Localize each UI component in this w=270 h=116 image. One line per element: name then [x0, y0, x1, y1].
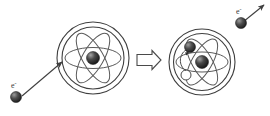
incoming-electron-label: e- [11, 80, 17, 90]
ejected-electron-label: e- [236, 6, 242, 16]
transition-block-arrow [137, 51, 161, 70]
ionization-diagram: e- e- [0, 0, 270, 116]
left-atom-nucleus [87, 52, 100, 65]
electron-vacancy-hole [181, 70, 191, 80]
electron-relaxation-arc [180, 50, 186, 71]
incoming-electron-group: e- [11, 62, 63, 103]
right-atom-nucleus [196, 56, 209, 69]
incoming-electron-arrow [22, 62, 62, 96]
bound-electron-sphere [185, 42, 196, 53]
ejected-electron-group: e- [236, 5, 265, 29]
transition-arrow-shape [137, 51, 161, 70]
right-atom-group [169, 29, 235, 95]
left-atom-group [57, 22, 129, 94]
ejected-electron-sphere [236, 18, 247, 29]
incoming-electron-sphere [11, 92, 22, 103]
diagram-canvas: e- e- [0, 0, 270, 116]
ejected-electron-arrow [243, 5, 264, 22]
